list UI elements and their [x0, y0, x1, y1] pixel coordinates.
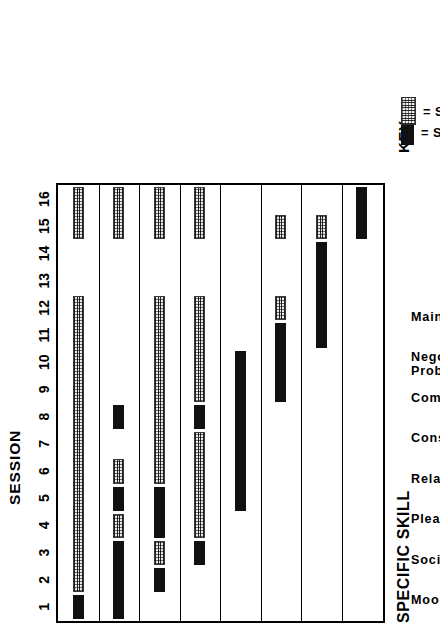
bar-taught [235, 351, 246, 511]
bar-discussed [113, 459, 124, 483]
bar-discussed [194, 296, 205, 402]
bar-taught [356, 188, 367, 239]
session-tick-label: 9 [36, 377, 52, 401]
bar-discussed [113, 188, 124, 239]
bar-taught [73, 595, 84, 619]
bar-discussed [275, 215, 286, 239]
bar-discussed [194, 188, 205, 239]
skill-axis-label: Relaxation [411, 472, 440, 486]
bar-discussed [154, 188, 165, 239]
session-tick-label: 6 [36, 459, 52, 483]
bar-taught [154, 568, 165, 592]
bar-discussed [154, 541, 165, 565]
bar-discussed [73, 296, 84, 592]
figure-rotator: SESSION 12345678910111213141516 SPECIFIC… [0, 0, 440, 623]
legend-swatch-discussed [401, 97, 416, 125]
session-tick-label: 10 [36, 350, 52, 374]
skill-axis-label: Negotiation andProblem Solving [411, 350, 440, 378]
plot-bars [58, 185, 383, 621]
session-tick-label: 1 [36, 595, 52, 619]
legend-label: = Skill is discussed as part of home pra… [423, 104, 440, 119]
bar-discussed [154, 296, 165, 483]
bar-discussed [73, 188, 84, 239]
session-tick-label: 2 [36, 568, 52, 592]
bar-discussed [275, 296, 286, 320]
bar-taught [113, 541, 124, 620]
bar-taught [113, 405, 124, 429]
session-axis-ticks: 12345678910111213141516 [36, 183, 56, 623]
session-tick-label: 11 [36, 323, 52, 347]
bar-discussed [194, 432, 205, 538]
skill-axis-label: Communication [411, 391, 440, 405]
bar-taught [194, 405, 205, 429]
skill-axis-label: Mood Monitoring [411, 593, 440, 607]
session-tick-label: 5 [36, 486, 52, 510]
bar-discussed [113, 514, 124, 538]
session-axis-title: SESSION [6, 430, 24, 505]
session-tick-label: 16 [36, 187, 52, 211]
skill-axis-label: Social Skills [411, 553, 440, 567]
session-tick-label: 7 [36, 432, 52, 456]
figure: SESSION 12345678910111213141516 SPECIFIC… [0, 0, 440, 623]
bar-taught [113, 487, 124, 511]
session-tick-label: 12 [36, 296, 52, 320]
legend-entry: = Skill is discussed as part of home pra… [401, 97, 440, 125]
session-tick-label: 13 [36, 269, 52, 293]
session-tick-label: 14 [36, 241, 52, 265]
bar-taught [194, 541, 205, 565]
session-tick-label: 15 [36, 214, 52, 238]
legend-label: = Skill is taught [421, 125, 440, 140]
skill-axis-label: Constructive Thinking [411, 431, 440, 445]
skill-axis-label: Pleasant Activities [411, 512, 440, 526]
bar-discussed [316, 215, 327, 239]
skill-axis-label: Maintenance of Gain [411, 310, 440, 324]
plot-area [56, 183, 385, 623]
skill-axis: SPECIFIC SKILL Mood MonitoringSocial Ski… [395, 0, 440, 623]
bar-taught [275, 323, 286, 402]
bar-taught [316, 242, 327, 348]
session-tick-label: 8 [36, 405, 52, 429]
session-tick-label: 3 [36, 541, 52, 565]
session-tick-label: 4 [36, 513, 52, 537]
bar-taught [154, 487, 165, 538]
